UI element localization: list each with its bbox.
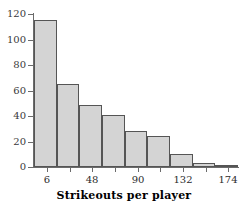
histogram-bar	[215, 165, 238, 167]
y-axis-tick	[28, 116, 33, 117]
histogram-bar	[34, 20, 57, 167]
x-axis-tick-label: 48	[86, 174, 99, 185]
y-axis-tick	[28, 91, 33, 92]
histogram-bar	[170, 154, 193, 167]
x-axis-tick	[183, 168, 184, 172]
histogram-bar	[193, 163, 216, 167]
x-axis-tick	[160, 168, 161, 172]
histogram-figure: 020406080100120 64890132174 Strikeouts p…	[0, 0, 248, 208]
x-axis-line	[33, 167, 239, 168]
y-axis-tick	[28, 167, 33, 168]
y-axis-tick-label: 60	[13, 86, 26, 96]
x-axis-tick-label: 132	[173, 174, 192, 185]
y-axis-tick-label: 120	[7, 9, 26, 19]
y-axis-tick-label: 40	[13, 111, 26, 121]
histogram-bar	[125, 131, 148, 167]
x-axis-tick-label: 6	[44, 174, 50, 185]
x-axis-tick	[228, 168, 229, 172]
y-axis-tick-label: 20	[13, 137, 26, 147]
x-axis-tick	[206, 168, 207, 172]
y-axis-tick	[28, 40, 33, 41]
x-axis-tick	[115, 168, 116, 172]
y-axis-tick	[28, 65, 33, 66]
x-axis-tick	[70, 168, 71, 172]
histogram-bar	[57, 84, 80, 167]
x-axis-tick	[47, 168, 48, 172]
x-axis-tick	[138, 168, 139, 172]
histogram-bar	[79, 105, 102, 167]
histogram-bar	[102, 115, 125, 167]
x-axis-title: Strikeouts per player	[0, 189, 248, 202]
histogram-bar	[147, 136, 170, 167]
y-axis-tick	[28, 14, 33, 15]
y-axis-tick-label: 0	[20, 162, 26, 172]
y-axis-tick	[28, 142, 33, 143]
x-axis-tick-label: 90	[132, 174, 145, 185]
x-axis-tick-label: 174	[218, 174, 237, 185]
y-axis-tick-label: 80	[13, 60, 26, 70]
x-axis-tick	[92, 168, 93, 172]
y-axis-tick-label: 100	[7, 35, 26, 45]
plot-area	[34, 14, 238, 167]
